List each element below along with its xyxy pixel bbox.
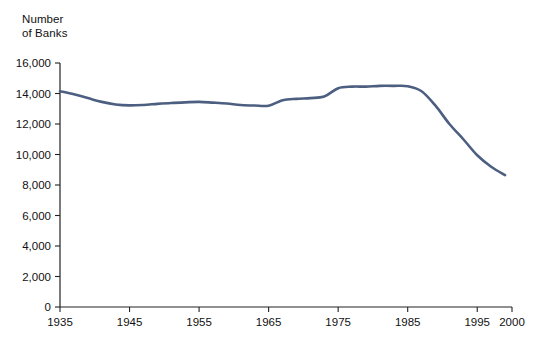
- y-axis: 02,0004,0006,0008,00010,00012,00014,0001…: [16, 57, 60, 313]
- y-tick-label: 2,000: [22, 271, 51, 283]
- y-tick-label: 6,000: [22, 210, 51, 222]
- x-tick-label: 1945: [117, 316, 143, 328]
- data-series-group: [60, 86, 505, 175]
- y-tick-label: 12,000: [16, 118, 51, 130]
- x-tick-group: 19351945195519651975198519952000: [47, 307, 525, 328]
- x-axis: 19351945195519651975198519952000: [47, 307, 525, 328]
- chart-figure: Number of Banks 02,0004,0006,0008,00010,…: [0, 0, 543, 343]
- y-tick-label: 16,000: [16, 57, 51, 69]
- x-tick-label: 1935: [47, 316, 73, 328]
- x-tick-label: 1955: [186, 316, 212, 328]
- x-tick-label: 1965: [256, 316, 282, 328]
- x-tick-label: 2000: [499, 316, 525, 328]
- y-tick-label: 4,000: [22, 240, 51, 252]
- x-tick-label: 1995: [464, 316, 490, 328]
- series-line-number-of-banks: [60, 86, 505, 175]
- y-tick-label: 0: [45, 301, 51, 313]
- line-chart-canvas: 02,0004,0006,0008,00010,00012,00014,0001…: [0, 0, 543, 343]
- y-tick-label: 14,000: [16, 88, 51, 100]
- y-tick-label: 10,000: [16, 149, 51, 161]
- x-tick-label: 1985: [395, 316, 421, 328]
- y-tick-group: 02,0004,0006,0008,00010,00012,00014,0001…: [16, 57, 60, 313]
- y-tick-label: 8,000: [22, 179, 51, 191]
- x-tick-label: 1975: [325, 316, 351, 328]
